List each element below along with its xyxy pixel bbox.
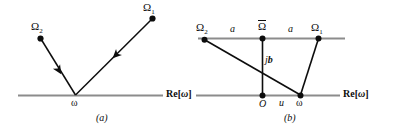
omega-subscript: 2	[39, 27, 43, 35]
omega-glyph: Ω	[311, 21, 319, 33]
axis-label-prefix: Re[	[166, 88, 181, 99]
panel-b-node-omega2	[202, 37, 208, 43]
omega-subscript: 2	[204, 28, 208, 36]
panel-a-label-omega2: Ω2	[31, 21, 43, 35]
axis-label-suffix: ]	[365, 88, 368, 99]
panel-b-group	[196, 36, 345, 99]
omega-glyph: Ω	[196, 21, 204, 33]
axis-label-prefix: Re[	[343, 88, 358, 99]
panel-b-label-omega: ω	[296, 98, 303, 108]
panel-b-caption: (b)	[284, 113, 296, 123]
panel-a-vector-omega2	[41, 39, 76, 95]
panel-b-segment-omega2-omega	[205, 40, 301, 95]
jb-b-glyph: b	[268, 54, 273, 65]
panel-a-caption: (a)	[96, 113, 108, 123]
figure-svg	[0, 0, 403, 132]
panel-a-node-omega2	[37, 35, 43, 41]
panel-b-label-omega-bar: Ω	[258, 20, 266, 33]
panel-b-label-a-right: a	[288, 24, 293, 34]
panel-a-label-omega-vertex: ω	[71, 98, 78, 108]
axis-label-suffix: ]	[188, 88, 191, 99]
omega-subscript: 1	[319, 28, 323, 36]
omega-bar-glyph: Ω	[258, 20, 266, 33]
panel-b-label-a-left: a	[230, 24, 235, 34]
panel-b-label-omega1: Ω1	[311, 22, 323, 36]
panel-a-axis-label: Re[ω]	[166, 89, 192, 99]
panel-b-label-u: u	[279, 98, 284, 108]
omega-glyph: Ω	[143, 1, 151, 13]
panel-b-segment-omega1-omega	[301, 39, 319, 96]
panel-a-node-omega1	[149, 15, 155, 21]
figure-container: Ω2 Ω1 ω Re[ω] (a) Ω2 Ω Ω1 a a jb O u ω R…	[0, 0, 403, 132]
omega-glyph: ω	[71, 97, 78, 108]
omega-glyph: Ω	[31, 20, 39, 32]
panel-b-label-jb: jb	[265, 55, 273, 65]
omega-subscript: 1	[151, 8, 155, 16]
panel-b-label-origin: O	[259, 99, 266, 109]
panel-a-label-omega1: Ω1	[143, 2, 155, 16]
panel-b-node-omega-bar	[260, 36, 266, 42]
panel-b-label-omega2: Ω2	[196, 22, 208, 36]
panel-b-axis-label: Re[ω]	[343, 89, 369, 99]
panel-b-node-omega1	[316, 36, 322, 42]
